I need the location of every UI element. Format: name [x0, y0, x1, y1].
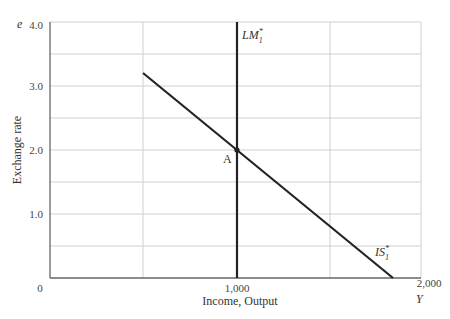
is-curve [143, 73, 393, 278]
is-label: IS*1 [374, 244, 389, 262]
x-symbol: Y [416, 292, 424, 306]
svg-text:2,000: 2,000 [417, 277, 442, 289]
svg-text:3.0: 3.0 [29, 80, 43, 92]
y-symbol: e [17, 17, 23, 31]
y-tick-labels: 4.0 3.0 2.0 1.0 [29, 19, 43, 220]
x-axis-title: Income, Output [202, 294, 278, 308]
y-axis-title: Exchange rate [10, 116, 24, 184]
svg-text:2.0: 2.0 [29, 144, 43, 156]
svg-text:1,000: 1,000 [225, 282, 250, 294]
svg-text:4.0: 4.0 [29, 19, 43, 31]
point-a-label: A [223, 152, 232, 166]
is-lm-chart: A LM*1 IS*1 4.0 3.0 2.0 1.0 e 0 1,000 2,… [0, 0, 450, 319]
svg-text:0: 0 [37, 282, 43, 294]
svg-text:1.0: 1.0 [29, 208, 43, 220]
x-tick-labels: 0 1,000 2,000 [37, 277, 442, 294]
equilibrium-point [234, 147, 239, 152]
lm-label: LM*1 [241, 27, 263, 45]
